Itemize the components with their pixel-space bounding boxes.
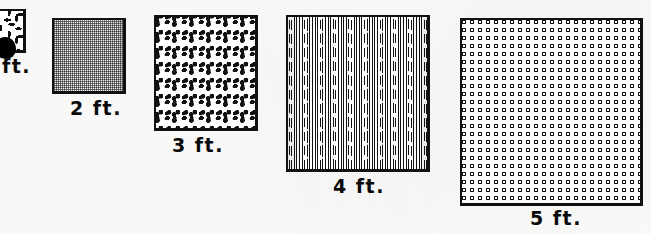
swatch-3ft <box>154 15 258 131</box>
figure-canvas: ft. 2 ft. 3 ft. 4 ft. 5 ft. <box>0 0 651 234</box>
swatch-2ft <box>52 18 126 94</box>
caption-4ft: 4 ft. <box>333 177 385 196</box>
caption-3ft: 3 ft. <box>172 136 224 155</box>
caption-2ft: 2 ft. <box>70 99 122 118</box>
swatch-4ft <box>286 15 430 172</box>
caption-1ft: ft. <box>2 57 31 76</box>
swatch-5ft <box>460 18 643 206</box>
caption-5ft: 5 ft. <box>530 209 582 228</box>
swatch-2ft-shading <box>54 20 124 92</box>
swatch-4ft-shading <box>288 17 428 170</box>
